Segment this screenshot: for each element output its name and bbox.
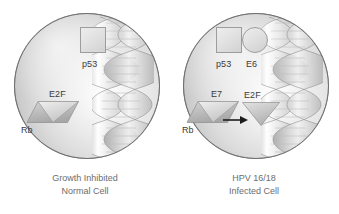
caption-infected-line2: Infected Cell — [169, 185, 339, 198]
caption-normal-line2: Normal Cell — [0, 185, 170, 198]
label-e2f: E2F — [49, 90, 66, 99]
molecule-p53-square-infected — [216, 27, 242, 53]
molecule-e6-circle — [242, 27, 268, 53]
label-e6: E6 — [246, 60, 257, 69]
molecule-e2f-free-triangle — [242, 102, 280, 126]
caption-infected-line1: HPV 16/18 — [169, 172, 339, 185]
label-rb: Rb — [21, 126, 33, 135]
label-e7: E7 — [211, 90, 222, 99]
label-e2f-infected: E2F — [244, 91, 261, 100]
label-p53-infected: p53 — [216, 60, 231, 69]
label-rb-infected: Rb — [182, 126, 194, 135]
caption-normal-line1: Growth Inhibited — [0, 172, 170, 185]
caption-normal-cell: Growth Inhibited Normal Cell — [0, 172, 170, 198]
molecule-p53-square — [80, 27, 106, 53]
hpv-cell-comparison-diagram: p53 E2F Rb Growth — [0, 0, 339, 214]
label-p53: p53 — [82, 60, 97, 69]
caption-infected-cell: HPV 16/18 Infected Cell — [169, 172, 339, 198]
panel-normal-cell: p53 E2F Rb Growth — [0, 0, 170, 214]
molecule-rb-e2f-complex — [27, 101, 79, 123]
dna-double-helix-icon-infected — [261, 17, 323, 157]
panel-hpv-infected-cell: p53 E6 E7 Rb — [169, 0, 339, 214]
